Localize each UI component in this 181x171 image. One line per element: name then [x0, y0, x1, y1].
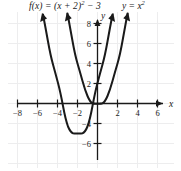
- parent-function-eq: =: [126, 1, 137, 11]
- x-tick-label-6: 6: [155, 108, 159, 118]
- graph-figure: f(x) = (x + 2)2 − 3 y = x2: [0, 0, 181, 171]
- y-tick-label--6: −6: [82, 139, 91, 149]
- x-tick-label--4: −4: [53, 108, 63, 118]
- y-axis-label: y: [100, 11, 106, 21]
- transformed-function-tail: − 3: [85, 1, 101, 11]
- x-tick-label--2: −2: [73, 108, 82, 118]
- x-axis-label: x: [168, 99, 174, 109]
- x-tick-label-2: 2: [115, 108, 119, 118]
- parent-function-label: y = x2: [122, 1, 145, 11]
- y-axis-arrowhead: [95, 19, 101, 26]
- x-tick-label--8: −8: [13, 108, 22, 118]
- x-tick-label--6: −6: [33, 108, 42, 118]
- transformed-function-eq: =: [43, 1, 54, 11]
- graph-canvas: −8 −6 −4 −2 2 4 6 8 6 4 2 −4 −6 x y: [0, 0, 181, 171]
- transformed-function-lhs: f(x): [29, 1, 43, 11]
- y-tick-label-8: 8: [87, 19, 91, 29]
- transformed-function-base: (x + 2): [54, 1, 81, 11]
- x-tick-label-4: 4: [135, 108, 140, 118]
- y-tick-label-2: 2: [87, 79, 91, 89]
- transformed-function-label: f(x) = (x + 2)2 − 3: [29, 1, 101, 11]
- y-tick-label-6: 6: [87, 39, 91, 49]
- grid-lines: [8, 12, 174, 168]
- parent-function-exponent: 2: [142, 0, 145, 6]
